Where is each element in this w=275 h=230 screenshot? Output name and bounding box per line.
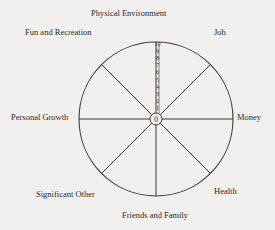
- spoke-line: [102, 123, 152, 173]
- scale-tick-label: 9: [156, 48, 159, 54]
- scale-tick-label: 1: [156, 105, 159, 111]
- spoke-line: [160, 65, 210, 115]
- segment-label-friends-and-family: Friends and Family: [122, 210, 188, 220]
- segment-label-physical-environment: Physical Environment: [91, 8, 166, 18]
- segment-label-health: Health: [214, 186, 237, 196]
- scale-tick-label: 6: [156, 69, 159, 75]
- segment-label-significant-other: Significant Other: [36, 189, 95, 199]
- scale-tick-label: 2: [156, 98, 159, 104]
- scale-tick-label: 3: [156, 91, 159, 97]
- spoke-line: [160, 123, 210, 173]
- segment-label-personal-growth: Personal Growth: [11, 112, 68, 122]
- segment-label-job: Job: [214, 27, 226, 37]
- scale-tick-label: 10: [155, 41, 161, 47]
- segment-label-fun-and-recreation: Fun and Recreation: [25, 27, 92, 37]
- spoke-line: [102, 65, 152, 115]
- scale-tick-label: 8: [156, 55, 159, 61]
- center-zero-label: 0: [154, 115, 158, 124]
- scale-tick-label: 7: [156, 62, 159, 68]
- segment-label-money: Money: [237, 112, 261, 122]
- scale-tick-label: 4: [156, 84, 159, 90]
- scale-tick-label: 5: [156, 77, 159, 83]
